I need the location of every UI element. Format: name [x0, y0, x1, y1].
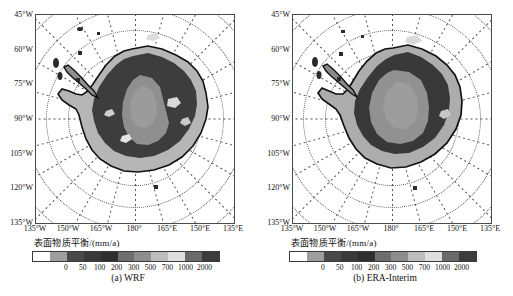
colorbar-tick-label: 100	[351, 263, 362, 272]
colorbar-tick-label: 50	[336, 263, 344, 272]
x-tick-label: 150°E	[190, 224, 210, 233]
colorbar-title: 表面物质平衡/(mm/a)	[34, 236, 234, 249]
x-tick-label: 150°W	[314, 224, 337, 233]
colorbar-segment	[151, 252, 168, 261]
colorbar-tick-label: 700	[162, 263, 173, 272]
colorbar-segment	[101, 252, 118, 261]
x-tick-label: 135°W	[281, 224, 304, 233]
colorbar-wrf: 表面物质平衡/(mm/a) 0 50 100 200 300 5	[32, 236, 234, 274]
x-tick-label: 165°E	[157, 224, 177, 233]
colorbar-title: 表面物质平衡/(mm/a)	[291, 236, 491, 249]
x-tick-label: 150°W	[57, 224, 80, 233]
y-tick-label: 60°W	[271, 44, 290, 53]
colorbar-segment	[375, 252, 392, 261]
y-axis-labels-b: 45°W 60°W 75°W 90°W 105°W 120°W 135°W	[257, 14, 290, 222]
x-tick-label: 165°E	[414, 224, 434, 233]
colorbar-segment	[408, 252, 425, 261]
x-tick-label: 150°E	[447, 224, 467, 233]
y-tick-label: 105°W	[267, 148, 290, 157]
map-plot-area-wrf[interactable]	[35, 14, 235, 224]
colorbar-tick-label: 1000	[435, 263, 450, 272]
x-tick-label: 165°W	[90, 224, 113, 233]
colorbar-tick-label: 700	[419, 263, 430, 272]
y-tick-label: 45°W	[14, 10, 33, 19]
colorbar-tick-label: 300	[128, 263, 139, 272]
colorbar-tick-label: 50	[79, 263, 87, 272]
colorbar-segment	[50, 252, 67, 261]
colorbar-segment	[391, 252, 408, 261]
colorbar-tick-label: 100	[94, 263, 105, 272]
colorbar-segment	[425, 252, 442, 261]
x-tick-label: 135°W	[24, 224, 47, 233]
colorbar-segment	[168, 252, 185, 261]
x-tick-label: 180°	[126, 224, 141, 233]
colorbar-strip[interactable]	[32, 251, 220, 262]
y-tick-label: 120°W	[267, 183, 290, 192]
panel-wrf: 45°W 60°W 75°W 90°W 105°W 120°W 135°W	[0, 0, 256, 296]
colorbar-strip[interactable]	[289, 251, 477, 262]
colorbar-segment	[67, 252, 84, 261]
x-tick-label: 135°E	[223, 224, 243, 233]
colorbar-segment	[341, 252, 358, 261]
y-tick-label: 75°W	[271, 79, 290, 88]
colorbar-tick-label: 500	[402, 263, 413, 272]
y-tick-label: 90°W	[271, 114, 290, 123]
colorbar-tick-label: 200	[111, 263, 122, 272]
x-axis-labels-a: 135°W 150°W 165°W 180° 165°E 150°E 135°E	[35, 224, 233, 236]
panel-caption-wrf: (a) WRF	[0, 273, 256, 283]
colorbar-era: 表面物质平衡/(mm/a) 0 50 100 200 300 5	[289, 236, 491, 274]
y-tick-label: 105°W	[10, 148, 33, 157]
colorbar-tick-label: 500	[145, 263, 156, 272]
colorbar-tick-label: 1000	[178, 263, 193, 272]
colorbar-tick-label: 0	[64, 263, 68, 272]
antarctica-smb-map-wrf	[36, 15, 234, 223]
colorbar-segment	[307, 252, 324, 261]
colorbar-tick-label: 0	[321, 263, 325, 272]
colorbar-segment	[33, 252, 50, 261]
colorbar-tick-label: 2000	[454, 263, 469, 272]
colorbar-segment	[202, 252, 219, 261]
antarctica-smb-map-era	[293, 15, 491, 223]
x-axis-labels-b: 135°W 150°W 165°W 180° 165°E 150°E 135°E	[292, 224, 490, 236]
y-tick-label: 75°W	[14, 79, 33, 88]
y-tick-label: 45°W	[271, 10, 290, 19]
x-tick-label: 165°W	[347, 224, 370, 233]
colorbar-segment	[459, 252, 476, 261]
colorbar-tick-label: 300	[385, 263, 396, 272]
colorbar-segment	[118, 252, 135, 261]
x-tick-label: 180°	[383, 224, 398, 233]
x-tick-label: 135°E	[480, 224, 500, 233]
colorbar-segment	[84, 252, 101, 261]
y-axis-labels-a: 45°W 60°W 75°W 90°W 105°W 120°W 135°W	[0, 14, 33, 222]
y-tick-label: 90°W	[14, 114, 33, 123]
colorbar-segment	[185, 252, 202, 261]
panel-era-interim: 45°W 60°W 75°W 90°W 105°W 120°W 135°W	[257, 0, 513, 296]
colorbar-segment	[134, 252, 151, 261]
panel-caption-era: (b) ERA-Interim	[257, 273, 513, 283]
y-tick-label: 60°W	[14, 44, 33, 53]
colorbar-segment	[442, 252, 459, 261]
colorbar-segment	[324, 252, 341, 261]
colorbar-segment	[290, 252, 307, 261]
colorbar-tick-label: 200	[368, 263, 379, 272]
y-tick-label: 120°W	[10, 183, 33, 192]
colorbar-tick-label: 2000	[197, 263, 212, 272]
colorbar-segment	[358, 252, 375, 261]
figure-surface-mass-balance: 45°W 60°W 75°W 90°W 105°W 120°W 135°W	[0, 0, 513, 296]
map-plot-area-era[interactable]	[292, 14, 492, 224]
